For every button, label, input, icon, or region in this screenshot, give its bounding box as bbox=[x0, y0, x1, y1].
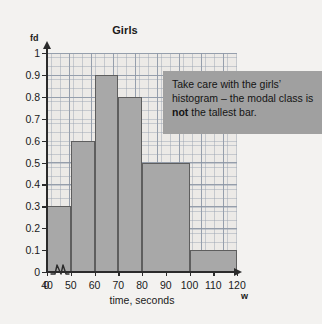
y-axis-tick-label: 0.8 bbox=[4, 92, 40, 102]
x-axis-tick-mark bbox=[47, 271, 48, 276]
y-axis-line bbox=[46, 48, 48, 272]
y-axis-tick-label: 0 bbox=[4, 267, 40, 277]
y-axis-tick-mark bbox=[42, 141, 47, 142]
y-axis-tick-mark bbox=[42, 184, 47, 185]
axis-break-icon bbox=[50, 262, 70, 276]
y-axis-tick-mark bbox=[42, 119, 47, 120]
y-axis-label: fd bbox=[30, 33, 39, 43]
histogram-figure: Girls 00.10.20.30.40.50.60.70.80.91 0405… bbox=[0, 0, 322, 324]
x-axis-tick-mark bbox=[213, 271, 214, 276]
y-axis-tick-mark bbox=[42, 53, 47, 54]
x-axis-tick-mark bbox=[118, 271, 119, 276]
histogram-bar bbox=[95, 75, 119, 272]
y-axis-tick-label: 0.6 bbox=[4, 136, 40, 146]
x-axis-tick-mark bbox=[95, 271, 96, 276]
x-axis-tick-label: 40 bbox=[34, 279, 60, 291]
y-axis-tick-label: 0.1 bbox=[4, 245, 40, 255]
x-axis-tick-label: 110 bbox=[200, 279, 226, 291]
x-axis-tick-mark bbox=[142, 271, 143, 276]
y-axis-tick-mark bbox=[42, 75, 47, 76]
x-axis-tick-mark bbox=[190, 271, 191, 276]
y-axis-tick-mark bbox=[42, 163, 47, 164]
x-axis-caption: time, seconds bbox=[47, 294, 237, 306]
y-axis-tick-mark bbox=[42, 206, 47, 207]
x-axis-tick-mark bbox=[166, 271, 167, 276]
histogram-bar bbox=[190, 250, 238, 272]
callout-text-after: the tallest bar. bbox=[188, 106, 256, 118]
y-axis-tick-mark bbox=[42, 250, 47, 251]
y-axis-tick-label: 0.4 bbox=[4, 179, 40, 189]
x-axis-line bbox=[46, 271, 236, 273]
callout-note: Take care with the girls’ histogram – th… bbox=[163, 71, 322, 134]
x-axis-tick-mark bbox=[237, 271, 238, 276]
x-axis-tick-label: 100 bbox=[177, 279, 203, 291]
y-axis-tick-label: 0.5 bbox=[4, 158, 40, 168]
histogram-bar bbox=[118, 97, 142, 272]
y-axis-tick-mark bbox=[42, 228, 47, 229]
x-axis-tick-mark bbox=[71, 271, 72, 276]
x-axis-tick-label: 90 bbox=[153, 279, 179, 291]
y-axis-tick-mark bbox=[42, 97, 47, 98]
y-axis-tick-label: 0.7 bbox=[4, 114, 40, 124]
x-axis-tick-label: 50 bbox=[58, 279, 84, 291]
y-axis-tick-label: 0.2 bbox=[4, 223, 40, 233]
x-axis-variable-label: w bbox=[241, 291, 248, 301]
callout-text-before: Take care with the girls’ histogram – th… bbox=[172, 78, 313, 104]
x-axis-tick-label: 80 bbox=[129, 279, 155, 291]
y-axis-arrow-icon bbox=[43, 41, 51, 49]
callout-emphasis: not bbox=[172, 106, 188, 118]
y-axis-tick-label: 0.9 bbox=[4, 70, 40, 80]
x-axis-tick-label: 70 bbox=[105, 279, 131, 291]
histogram-bar bbox=[71, 141, 95, 272]
x-axis-tick-label: 120 bbox=[224, 279, 250, 291]
histogram-bar bbox=[142, 163, 190, 273]
x-axis-tick-label: 60 bbox=[82, 279, 108, 291]
y-axis-tick-label: 1 bbox=[4, 48, 40, 58]
y-axis-tick-label: 0.3 bbox=[4, 201, 40, 211]
